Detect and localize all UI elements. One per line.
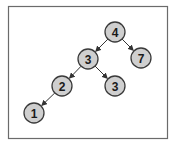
node-label: 1 <box>31 107 38 121</box>
node-label: 7 <box>138 52 145 66</box>
tree-node: 4 <box>105 22 125 42</box>
edge-n4-n7 <box>122 39 133 50</box>
tree-node: 3 <box>78 49 98 69</box>
nodes: 437231 <box>24 22 151 123</box>
tree-node: 7 <box>131 48 151 68</box>
tree-node: 2 <box>52 76 72 96</box>
edge-n3a-n3b <box>95 66 107 78</box>
node-label: 3 <box>85 53 92 67</box>
tree-node: 1 <box>24 103 44 123</box>
edge-n2-n1 <box>42 93 55 105</box>
edge-n4-n3a <box>96 39 108 51</box>
node-label: 4 <box>112 26 119 40</box>
node-label: 2 <box>59 80 66 94</box>
tree-diagram: 437231 <box>0 0 183 147</box>
edge-n3a-n2 <box>70 66 81 78</box>
node-label: 3 <box>112 80 119 94</box>
tree-node: 3 <box>105 76 125 96</box>
